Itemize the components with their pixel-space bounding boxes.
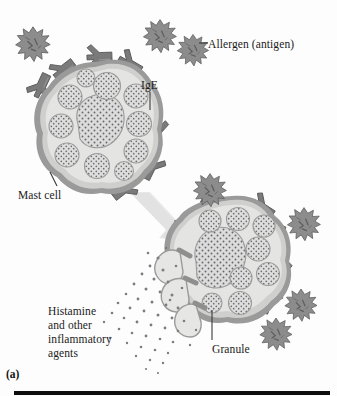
free-allergen-group — [143, 20, 208, 66]
stippled-granule-icon — [229, 292, 252, 315]
label-mast-cell: Mast cell — [18, 188, 61, 202]
stippled-granule-icon — [58, 85, 82, 109]
label-granule: Granule — [212, 342, 250, 356]
stippled-granule-icon — [115, 162, 134, 181]
mast-cell-degranulation-figure: Allergen (antigen) IgE Mast cell Histami… — [0, 0, 337, 396]
spiky-allergen-particle-icon — [260, 318, 292, 350]
spiky-allergen-particle-icon — [16, 27, 51, 62]
stippled-granule-icon — [257, 263, 280, 286]
spiky-allergen-particle-icon — [287, 208, 320, 241]
spiky-allergen-particle-icon — [143, 20, 176, 53]
label-allergen: Allergen (antigen) — [208, 37, 294, 51]
stippled-granule-icon — [246, 237, 270, 261]
activated-mast-cell — [155, 174, 321, 351]
spiky-allergen-particle-icon — [285, 289, 317, 321]
stippled-granule-icon — [230, 267, 252, 289]
spiky-allergen-particle-icon — [177, 34, 208, 66]
stippled-granule-icon — [77, 69, 95, 87]
panel-letter: (a) — [6, 368, 19, 380]
stippled-granule-icon — [127, 112, 152, 137]
label-histamine-and-inflammatory-agents: Histamine and other inflammatory agents — [48, 304, 112, 360]
stippled-granule-icon — [199, 210, 221, 232]
stippled-granule-icon — [49, 114, 73, 138]
stippled-granule-icon — [227, 208, 250, 231]
stippled-granule-icon — [85, 154, 110, 179]
stippled-granule-icon — [124, 139, 148, 163]
stippled-granule-icon — [94, 73, 121, 100]
label-ige: IgE — [141, 78, 158, 92]
stippled-granule-icon — [55, 143, 79, 167]
bottom-divider — [14, 391, 330, 395]
stippled-granule-icon — [253, 215, 275, 237]
resting-mast-cell — [16, 27, 170, 207]
